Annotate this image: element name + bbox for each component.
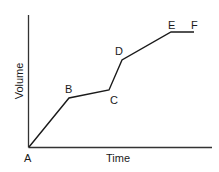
y-axis-label: Volume [13,63,25,100]
point-label-b: B [65,83,72,95]
point-label-c: C [110,94,118,106]
point-label-d: D [115,45,123,57]
point-label-f: F [191,19,198,31]
x-axis-label: Time [106,152,130,164]
volume-curve [29,32,194,147]
volume-time-chart: A B C D E F Time Volume [0,0,219,172]
point-label-a: A [24,152,32,164]
point-label-e: E [168,19,175,31]
